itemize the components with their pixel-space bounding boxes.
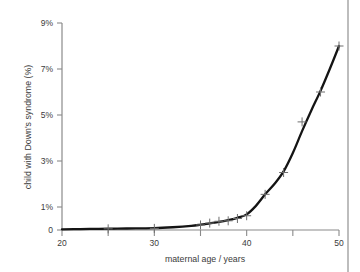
axes [62,23,339,230]
data-point-marker [196,220,205,229]
x-tick-label: 20 [57,238,67,248]
figure-container: 01%3%5%7%9% 20304050 child with Down's s… [0,0,360,272]
downs-syndrome-risk-chart: 01%3%5%7%9% 20304050 child with Down's s… [0,0,360,272]
y-tick-label: 5% [41,110,54,120]
x-axis-ticks: 20304050 [57,230,344,248]
y-tick-label: 9% [41,18,54,28]
x-tick-label: 40 [242,238,252,248]
data-point-marker [205,219,214,228]
y-tick-label: 3% [41,156,54,166]
data-point-marker [224,216,233,225]
x-axis-title: maternal age / years [165,254,246,264]
data-point-marker [335,42,344,51]
y-tick-label: 1% [41,202,54,212]
data-curve [62,46,339,229]
y-tick-label: 7% [41,64,54,74]
y-axis-title: child with Down's syndrome (%) [23,65,33,189]
data-point-marker [214,217,223,226]
y-tick-label: 0 [48,225,53,235]
x-tick-label: 30 [150,238,160,248]
data-point-marker [150,224,159,233]
y-axis-ticks: 01%3%5%7%9% [41,18,62,235]
data-markers [104,42,344,234]
x-tick-label: 50 [334,238,344,248]
data-point-marker [233,214,242,223]
data-point-marker [104,224,113,233]
